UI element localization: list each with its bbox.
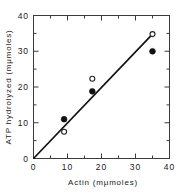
y-axis-ticks <box>34 16 39 159</box>
y-tick-label-0: 0 <box>23 154 29 164</box>
data-point-open <box>90 76 95 81</box>
x-tick-label-20: 20 <box>96 162 107 172</box>
regression-line <box>34 34 153 158</box>
data-point-filled <box>150 48 156 54</box>
x-tick-label-0: 0 <box>31 162 37 172</box>
data-point-filled <box>61 116 67 122</box>
data-point-filled <box>89 88 95 94</box>
y-axis-right-ticks <box>165 33 170 140</box>
x-tick-label-40: 40 <box>164 162 175 172</box>
scatter-plot-svg: 0 10 20 30 40 0 10 20 30 40 Actin (mμmol… <box>0 0 189 194</box>
y-tick-label-40: 40 <box>18 11 29 21</box>
y-tick-label-20: 20 <box>18 82 29 92</box>
filled-circle-series <box>61 48 155 122</box>
x-tick-label-10: 10 <box>62 162 73 172</box>
data-point-open <box>62 129 67 134</box>
y-axis-title: ATP hydrolyzed (mμmoles) <box>4 29 13 144</box>
y-tick-label-10: 10 <box>18 118 29 128</box>
x-tick-label-30: 30 <box>130 162 141 172</box>
data-point-open <box>150 32 155 37</box>
y-tick-label-30: 30 <box>18 46 29 56</box>
chart-figure: 0 10 20 30 40 0 10 20 30 40 Actin (mμmol… <box>0 0 189 194</box>
x-axis-title: Actin (mμmoles) <box>68 178 138 187</box>
x-axis-top-ticks <box>51 16 153 21</box>
x-axis-ticks <box>34 154 170 159</box>
